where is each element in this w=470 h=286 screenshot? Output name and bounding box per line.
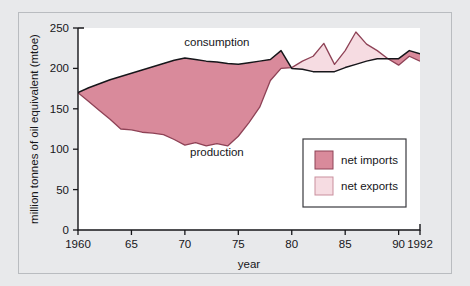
x-tick-label: 1992 — [407, 238, 433, 250]
x-tick-label: 90 — [392, 238, 405, 250]
x-axis-ticks: 19606570758085901992 — [65, 230, 433, 250]
production-annotation: production — [190, 146, 244, 158]
x-axis-title: year — [238, 258, 261, 270]
y-tick-label: 150 — [50, 103, 69, 115]
energy-area-chart: 050100150200250 19606570758085901992 mil… — [0, 0, 470, 286]
legend-swatch-net-exports — [315, 177, 333, 195]
legend-swatch-net-imports — [315, 151, 333, 169]
x-tick-label: 85 — [339, 238, 352, 250]
figure-container: 050100150200250 19606570758085901992 mil… — [0, 0, 470, 286]
legend-box — [303, 139, 406, 207]
x-tick-label: 1960 — [65, 238, 91, 250]
y-axis-title: million tonnes of oil equivalent (mtoe) — [28, 34, 40, 224]
y-tick-label: 0 — [63, 224, 69, 236]
x-tick-label: 80 — [285, 238, 298, 250]
y-tick-label: 100 — [50, 143, 69, 155]
x-tick-label: 70 — [178, 238, 191, 250]
legend-label-net-imports: net imports — [341, 154, 398, 166]
y-tick-label: 250 — [50, 22, 69, 34]
x-tick-label: 65 — [125, 238, 138, 250]
y-tick-label: 200 — [50, 62, 69, 74]
x-tick-label: 75 — [232, 238, 245, 250]
y-tick-label: 50 — [56, 184, 69, 196]
y-axis-ticks: 050100150200250 — [50, 22, 78, 236]
legend-label-net-exports: net exports — [341, 180, 398, 192]
legend: net imports net exports — [303, 139, 406, 207]
consumption-annotation: consumption — [184, 36, 249, 48]
chart-canvas: 050100150200250 19606570758085901992 mil… — [0, 0, 470, 286]
